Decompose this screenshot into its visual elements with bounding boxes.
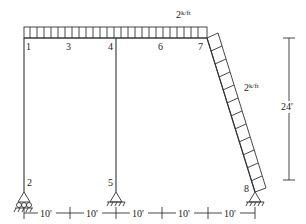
node-1: 1 — [26, 42, 31, 52]
span-label-5: 10' — [224, 209, 236, 219]
span-label-1: 10' — [40, 209, 52, 219]
node-6: 6 — [158, 42, 163, 52]
node-2: 2 — [27, 178, 32, 188]
node-4: 4 — [108, 42, 113, 52]
roller-support-2 — [14, 192, 33, 212]
frame-diagram — [0, 0, 306, 224]
node-3: 3 — [66, 42, 71, 52]
node-5: 5 — [108, 178, 113, 188]
incl-load-label: 2k/ft — [244, 83, 259, 93]
span-label-4: 10' — [178, 209, 190, 219]
pin-support-8 — [246, 192, 264, 206]
node-7: 7 — [198, 42, 203, 52]
inclined-load-ticks — [211, 46, 262, 181]
top-load-arrows — [30, 27, 198, 38]
top-load-label: 2k/ft — [176, 10, 191, 20]
height-label: 24' — [281, 102, 293, 112]
span-label-2: 10' — [86, 209, 98, 219]
pin-support-5 — [107, 192, 125, 206]
span-label-3: 10' — [132, 209, 144, 219]
inclined-load-block — [207, 33, 266, 192]
node-8: 8 — [244, 184, 249, 194]
